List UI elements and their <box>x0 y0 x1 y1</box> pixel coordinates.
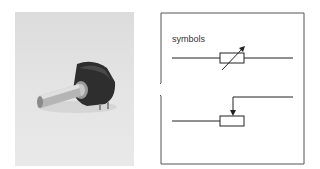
potentiometer-image <box>15 12 134 166</box>
symbols-label: symbols <box>172 34 205 44</box>
potentiometer-photo <box>15 12 134 166</box>
